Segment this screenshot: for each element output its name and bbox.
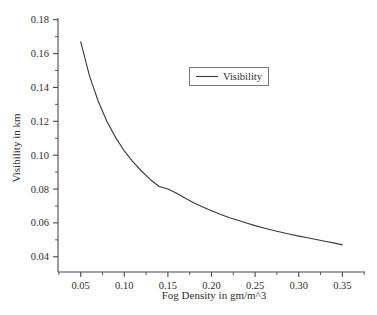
x-tick-label: 0.10 — [115, 280, 133, 291]
y-tick-label: 0.14 — [31, 82, 50, 93]
y-axis-title-group: Visibility in km — [10, 113, 22, 182]
x-tick-label: 0.30 — [290, 280, 308, 291]
y-axis-title: Visibility in km — [10, 113, 22, 182]
chart-figure: 0.050.100.150.200.250.300.35 0.040.060.0… — [0, 0, 377, 315]
plot-background — [0, 0, 377, 315]
y-tick-label: 0.04 — [31, 251, 50, 262]
chart-legend: Visibility — [190, 68, 269, 86]
visibility-vs-fog-density-chart: 0.050.100.150.200.250.300.35 0.040.060.0… — [0, 0, 377, 315]
y-tick-label: 0.08 — [31, 184, 49, 195]
x-axis-title-group: Fog Density in gm/m^3 — [162, 289, 267, 301]
legend-label: Visibility — [223, 71, 263, 82]
y-tick-label: 0.06 — [31, 217, 49, 228]
y-tick-label: 0.12 — [31, 116, 49, 127]
x-tick-label: 0.05 — [71, 280, 89, 291]
y-tick-label: 0.16 — [31, 48, 49, 59]
y-tick-label: 0.10 — [31, 150, 49, 161]
y-tick-label: 0.18 — [31, 14, 49, 25]
x-tick-label: 0.35 — [333, 280, 351, 291]
x-axis-title: Fog Density in gm/m^3 — [162, 289, 267, 301]
